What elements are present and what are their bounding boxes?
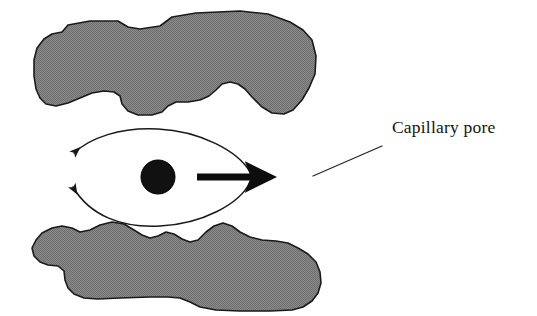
pore-particle — [141, 160, 175, 194]
callout-leader-line — [313, 146, 382, 176]
upper-solid-mass — [34, 11, 316, 115]
capillary-pore-label: Capillary pore — [392, 117, 495, 137]
lower-solid-mass — [32, 222, 321, 311]
capillary-pore-figure: Capillary pore — [0, 0, 537, 316]
figure-canvas: Capillary pore — [0, 0, 537, 316]
